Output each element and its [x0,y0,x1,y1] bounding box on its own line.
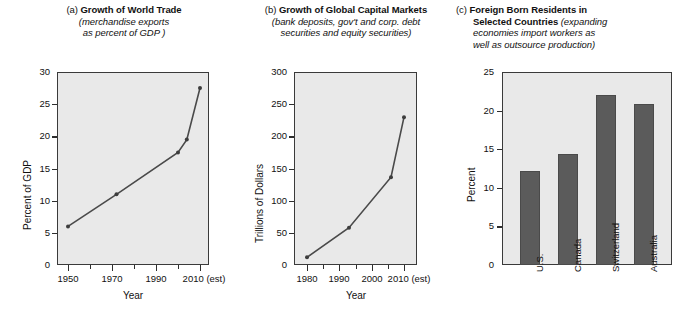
panel-c-subtitle-line2: economies import workers as [473,27,595,38]
panel-c-ytick-mark-10 [497,188,502,189]
three-panel-figure: (a) Growth of World Trade (merchandise e… [0,0,677,329]
panel-c-ytick-label-0: 0 [474,260,494,270]
panel-a-series-line [0,0,232,329]
panel-growth-of-world-trade: (a) Growth of World Trade (merchandise e… [0,0,232,329]
panel-c-ytick-label-20: 20 [474,106,494,116]
bar-label-us: U.S. [534,254,545,272]
panel-c-ytick-label-10: 10 [474,183,494,193]
panel-c-title-line2: Selected Countries [473,16,558,27]
panel-growth-of-global-capital-markets: (b) Growth of Global Capital Markets (ba… [232,0,450,329]
bar-us [520,171,540,265]
panel-c-ytick-label-15: 15 [474,144,494,154]
panel-b-series-line [232,0,450,329]
bar-label-switzerland: Switzerland [610,223,621,272]
bar-label-canada: Canada [572,239,583,272]
bar-label-australia: Australia [648,235,659,272]
panel-c-label: (c) [456,4,467,15]
panel-c-ytick-mark-15 [497,149,502,150]
panel-c-ytick-mark-5 [497,226,502,227]
panel-c-ytick-label-25: 25 [474,67,494,77]
panel-c-ytick-mark-20 [497,111,502,112]
panel-c-ytick-label-5: 5 [474,221,494,231]
panel-c-subtitle-line1: (expanding [561,16,608,27]
panel-c-subtitle-line3: well as outsource production) [473,39,595,50]
panel-foreign-born-residents: (c) Foreign Born Residents in Selected C… [450,0,677,329]
panel-c-title-line1: Foreign Born Residents in [470,4,588,15]
panel-c-caption: (c) Foreign Born Residents in Selected C… [456,4,674,50]
